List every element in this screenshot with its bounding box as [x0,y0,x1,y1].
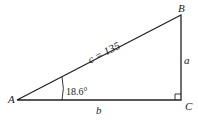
side-c-label: c = 135 [86,39,122,65]
vertex-a-label: A [7,93,15,105]
angle-a-label: 18.6° [66,86,88,97]
angle-arc [62,77,63,100]
side-a-label: a [184,54,190,66]
triangle-diagram: A B C a b c = 135 18.6° [0,0,198,122]
vertex-c-label: C [185,100,193,112]
right-angle-marker [175,94,181,100]
side-b-label: b [96,104,102,116]
vertex-b-label: B [178,2,185,14]
